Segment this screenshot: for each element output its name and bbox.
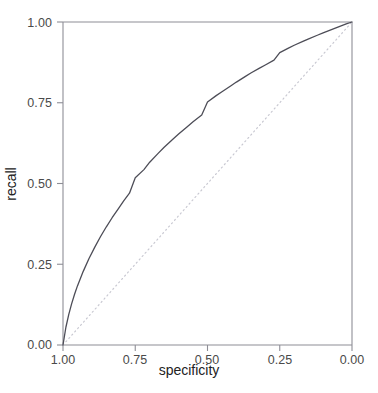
y-tick-label-0-25: 0.25 [8,258,52,272]
plot-canvas [0,0,378,393]
y-axis-ticks [57,22,63,345]
y-tick-label-0-75: 0.75 [8,96,52,110]
x-axis-ticks [63,345,352,351]
x-axis-title: specificity [0,362,378,378]
roc-curve-figure: 1.00 0.75 0.50 0.25 0.00 1.00 0.75 0.50 … [0,0,378,393]
y-tick-label-1-00: 1.00 [8,16,52,30]
y-tick-label-0-00: 0.00 [8,338,52,352]
y-axis-title: recall [3,154,19,214]
